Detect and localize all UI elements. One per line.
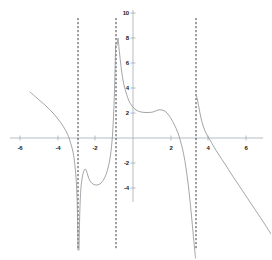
y-tick-label: 10	[123, 10, 129, 16]
y-tick-label: -4	[124, 185, 129, 191]
plot-canvas	[0, 0, 271, 260]
y-tick-label: 6	[126, 60, 129, 66]
x-tick-label: -2	[93, 145, 98, 151]
x-tick-label: 6	[244, 145, 247, 151]
x-tick-label: -6	[18, 145, 23, 151]
x-tick-label: 2	[169, 145, 172, 151]
x-tick-label: 4	[206, 145, 209, 151]
y-tick-label: 2	[126, 110, 129, 116]
axes-group	[10, 10, 263, 202]
y-tick-label: -2	[124, 160, 129, 166]
function-curve	[30, 38, 271, 258]
branch-middle-right	[117, 38, 195, 258]
y-tick-label: 8	[126, 35, 129, 41]
y-tick-label: 4	[126, 85, 129, 91]
x-tick-label: -4	[56, 145, 61, 151]
function-plot: -6-4-2246 108642-2-4	[0, 0, 271, 260]
branch-right	[197, 96, 272, 234]
branch-left	[30, 92, 78, 250]
